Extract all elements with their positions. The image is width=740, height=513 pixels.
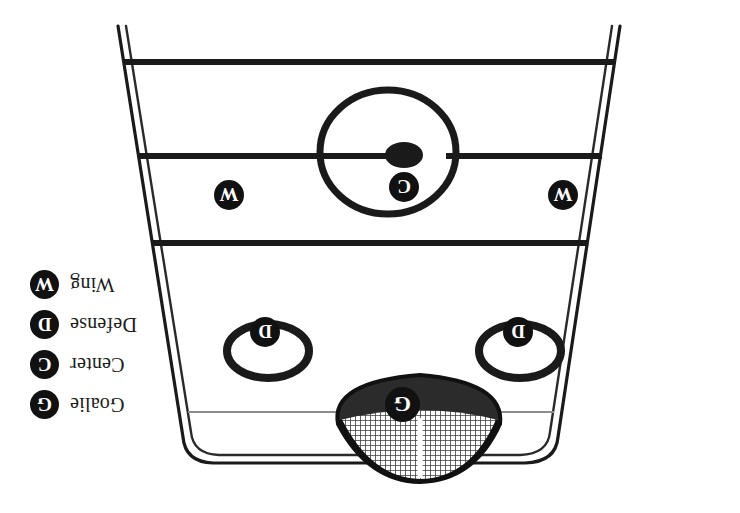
player-marker-right-wing[interactable]: W bbox=[548, 180, 578, 210]
legend: G Goalie C Center D Defense W Wing bbox=[30, 265, 165, 425]
player-marker-left-wing[interactable]: W bbox=[214, 180, 244, 210]
legend-badge-wing: W bbox=[30, 271, 59, 300]
hockey-rink-diagram: W W C D D G G Goalie C Center D Defense … bbox=[0, 0, 740, 513]
legend-label-center: Center bbox=[70, 354, 125, 377]
legend-badge-defense: D bbox=[30, 311, 59, 340]
player-marker-left-defense[interactable]: D bbox=[250, 317, 280, 347]
legend-label-goalie: Goalie bbox=[70, 394, 125, 417]
player-marker-goalie[interactable]: G bbox=[385, 387, 420, 422]
legend-row-center: C Center bbox=[30, 345, 165, 385]
legend-badge-goalie: G bbox=[30, 391, 59, 420]
legend-row-wing: W Wing bbox=[30, 265, 165, 305]
player-marker-center[interactable]: C bbox=[389, 172, 419, 202]
legend-label-defense: Defense bbox=[70, 314, 137, 337]
center-face-off-dot bbox=[385, 142, 423, 168]
legend-label-wing: Wing bbox=[70, 274, 114, 297]
legend-badge-center: C bbox=[30, 351, 59, 380]
player-marker-right-defense[interactable]: D bbox=[503, 317, 533, 347]
rink-graphic bbox=[0, 0, 740, 513]
legend-row-goalie: G Goalie bbox=[30, 385, 165, 425]
legend-row-defense: D Defense bbox=[30, 305, 165, 345]
